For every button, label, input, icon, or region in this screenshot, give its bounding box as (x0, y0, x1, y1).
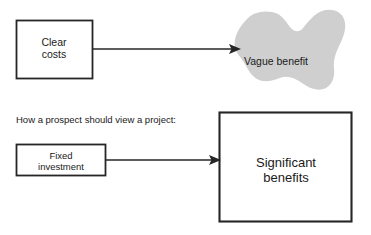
significant-benefits-box-shape (220, 113, 352, 222)
clear-costs-box-shape (17, 21, 93, 79)
diagram-caption: How a prospect should view a project: (16, 114, 176, 125)
fixed-investment-box-shape (17, 145, 106, 176)
diagram-canvas: Clear costs Vague benefit How a prospect… (0, 0, 371, 235)
vague-benefit-blob-shape (235, 10, 346, 90)
